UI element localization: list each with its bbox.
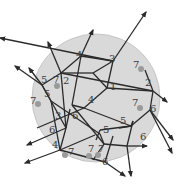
- vertex-label: 6: [150, 103, 156, 114]
- graph-diagram: 437215727547636556647776: [0, 0, 186, 194]
- vertex-label: 7: [68, 146, 74, 157]
- graph-edge: [150, 110, 172, 153]
- vertex-label: 7: [98, 143, 104, 154]
- vertex-label: 5: [103, 124, 109, 135]
- vertex-label: 2: [63, 75, 69, 86]
- vertex-label: 5: [120, 115, 126, 126]
- vertex-label: 6: [102, 156, 108, 167]
- vertex-label: 5: [44, 88, 50, 99]
- vertex-label: 4: [88, 94, 94, 105]
- vertex-label: 4: [52, 139, 58, 150]
- vertex-label: 3: [55, 110, 61, 121]
- vertex-label: 5: [41, 74, 47, 85]
- graph-edge: [25, 150, 60, 163]
- vertex-label: 3: [109, 53, 115, 64]
- vertex-label: 6: [72, 110, 78, 121]
- vertex-label: 7: [88, 143, 94, 154]
- vertex-label: 6: [49, 124, 55, 135]
- vertex-label: 7: [132, 97, 138, 108]
- vertex-label: 4: [76, 49, 82, 60]
- vertex-label: 7: [53, 74, 59, 85]
- vertex-label: 7: [133, 59, 139, 70]
- vertex-label: 2: [145, 77, 151, 88]
- vertex-label: 6: [140, 131, 146, 142]
- vertex-label: 7: [30, 95, 36, 106]
- vertex-label: 1: [110, 81, 116, 92]
